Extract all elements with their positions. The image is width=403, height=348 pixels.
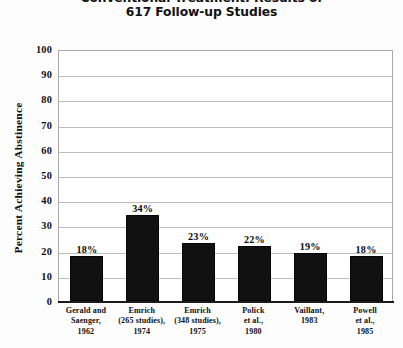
gridline bbox=[59, 127, 392, 128]
bar bbox=[238, 246, 271, 301]
bar-value-label: 18% bbox=[336, 244, 396, 255]
x-axis-category-line: 1980 bbox=[226, 327, 282, 337]
x-axis-category-line: 1974 bbox=[114, 327, 170, 337]
y-axis-tick-label: 20 bbox=[6, 246, 52, 257]
chart-title-line-2: 617 Follow-up Studies bbox=[0, 5, 403, 19]
x-axis-category-line: Emrich bbox=[170, 306, 226, 316]
x-axis-category-line: Vaillant, bbox=[281, 306, 337, 316]
x-axis-category-line: et al., bbox=[337, 316, 393, 326]
chart-figure: Conventional Treatment: Results of 617 F… bbox=[0, 0, 403, 348]
y-axis-tick-label: 100 bbox=[6, 44, 52, 55]
y-axis-tick-label: 40 bbox=[6, 195, 52, 206]
x-axis-category-line: 1983 bbox=[281, 316, 337, 326]
y-axis-tick-label: 70 bbox=[6, 120, 52, 131]
bar-value-label: 23% bbox=[169, 231, 229, 242]
x-axis-category-label: Emrich(265 studies),1974 bbox=[114, 306, 170, 337]
y-axis-tick-label: 0 bbox=[6, 296, 52, 307]
x-axis-category-label: Policket al.,1980 bbox=[226, 306, 282, 337]
x-axis-category-line: (348 studies), bbox=[170, 316, 226, 326]
bar-value-label: 22% bbox=[224, 234, 284, 245]
y-axis-tick-label: 80 bbox=[6, 94, 52, 105]
gridline bbox=[59, 152, 392, 153]
x-axis-category-line: 1975 bbox=[170, 327, 226, 337]
plot-area: 18%34%23%22%19%18% bbox=[58, 50, 393, 302]
x-axis-category-line: Polick bbox=[226, 306, 282, 316]
gridline bbox=[59, 278, 392, 279]
bar-value-label: 18% bbox=[57, 244, 117, 255]
y-axis-tick-label: 90 bbox=[6, 69, 52, 80]
y-axis-tick-label: 10 bbox=[6, 271, 52, 282]
gridline bbox=[59, 177, 392, 178]
x-axis-category-line: 1985 bbox=[337, 327, 393, 337]
x-axis-category-label: Gerald andSaenger,1962 bbox=[58, 306, 114, 337]
x-axis-category-line: et al., bbox=[226, 316, 282, 326]
x-axis-category-label: Vaillant,1983 bbox=[281, 306, 337, 327]
y-axis-tick-labels: 1009080706050403020100 bbox=[0, 50, 52, 302]
bar-value-label: 19% bbox=[280, 241, 340, 252]
x-axis-category-line: Gerald and bbox=[58, 306, 114, 316]
bar bbox=[70, 256, 103, 301]
x-axis-category-label: Emrich(348 studies),1975 bbox=[170, 306, 226, 337]
x-axis-category-line: (265 studies), bbox=[114, 316, 170, 326]
x-axis-category-line: Saenger, bbox=[58, 316, 114, 326]
x-axis-category-line: Emrich bbox=[114, 306, 170, 316]
bar bbox=[350, 256, 383, 301]
bar bbox=[182, 243, 215, 301]
bar bbox=[126, 215, 159, 301]
gridline bbox=[59, 101, 392, 102]
bar bbox=[294, 253, 327, 301]
x-axis-line bbox=[58, 301, 394, 303]
y-axis-tick-label: 30 bbox=[6, 220, 52, 231]
gridline bbox=[59, 202, 392, 203]
gridline bbox=[59, 227, 392, 228]
chart-title: Conventional Treatment: Results of 617 F… bbox=[0, 0, 403, 20]
x-axis-category-label: Powellet al.,1985 bbox=[337, 306, 393, 337]
y-axis-tick-label: 60 bbox=[6, 145, 52, 156]
y-axis-tick-label: 50 bbox=[6, 170, 52, 181]
x-axis-category-labels: Gerald andSaenger,1962Emrich(265 studies… bbox=[58, 306, 393, 348]
x-axis-category-line: Powell bbox=[337, 306, 393, 316]
gridline bbox=[59, 76, 392, 77]
x-axis-category-line: 1962 bbox=[58, 327, 114, 337]
bar-value-label: 34% bbox=[113, 203, 173, 214]
